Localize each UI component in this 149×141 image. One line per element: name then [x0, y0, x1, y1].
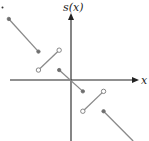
filled-endpoint-start: [102, 110, 105, 113]
y-axis-arrow-icon: [68, 13, 74, 20]
y-axis-label: s(x): [63, 1, 83, 14]
segment-line: [9, 19, 39, 52]
stray-dot: [2, 7, 4, 9]
segment-line: [83, 91, 104, 111]
x-axis-arrow-icon: [132, 77, 139, 83]
segment-line: [104, 111, 134, 141]
open-endpoint-start: [81, 109, 85, 113]
open-endpoint-start: [36, 68, 40, 72]
open-endpoint-end: [57, 48, 61, 52]
filled-endpoint-start: [57, 68, 60, 71]
filled-endpoint-end: [37, 50, 40, 53]
filled-endpoint-start: [7, 17, 10, 20]
segment-1: [7, 17, 40, 53]
axes: s(x) x: [10, 1, 148, 141]
filled-endpoint-end: [81, 90, 84, 93]
segment-4: [81, 89, 106, 113]
function-graph: s(x) x: [0, 0, 149, 141]
x-axis-label: x: [141, 74, 148, 87]
open-endpoint-end: [101, 89, 105, 93]
segment-5: [102, 110, 133, 141]
segment-line: [38, 50, 59, 70]
function-segments: [7, 17, 133, 141]
